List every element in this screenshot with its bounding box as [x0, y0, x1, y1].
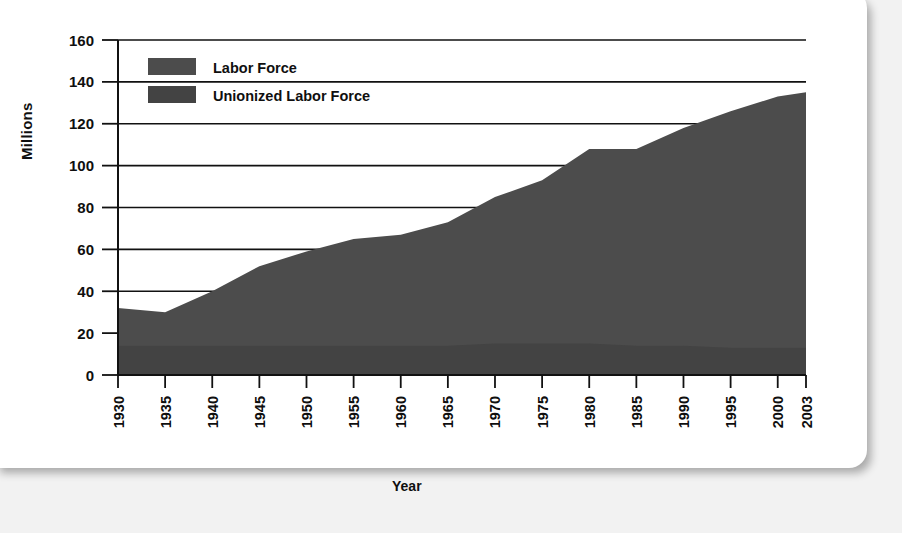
data-areas-group [118, 92, 806, 375]
legend-label: Unionized Labor Force [213, 88, 370, 104]
y-axis-tick-label: 160 [69, 32, 94, 49]
x-axis-tick-label: 1965 [440, 396, 456, 428]
y-axis-title: Millions [18, 40, 35, 160]
x-axis-tick-label: 2000 [770, 396, 786, 428]
x-axis-tick-label: 2003 [799, 396, 815, 428]
y-axis-tick-label: 140 [69, 73, 94, 90]
y-axis-tick-label: 80 [77, 199, 94, 216]
x-axis-tick-label: 1955 [346, 396, 362, 428]
screenshot-root: Millions Year 020406080100120140160 1930… [0, 0, 902, 533]
legend-swatch-labor-force [148, 58, 196, 75]
x-axis-tick-label: 1930 [111, 396, 127, 428]
x-axis-tick-label: 1980 [582, 396, 598, 428]
legend-swatch-unionized-labor-force [148, 86, 196, 103]
area-unionized-labor-force [118, 344, 806, 375]
chart-figure: Millions Year 020406080100120140160 1930… [0, 0, 875, 478]
x-axis-tick-label: 1940 [205, 396, 221, 428]
chart-legend: Labor ForceUnionized Labor Force [148, 58, 370, 104]
x-axis-tick-label: 1975 [535, 396, 551, 428]
y-axis-tick-label: 40 [77, 283, 94, 300]
y-axis-tick-label: 60 [77, 241, 94, 258]
x-axis-title: Year [392, 478, 422, 494]
x-axis-tick-label: 1990 [676, 396, 692, 428]
x-axis-tick-label: 1970 [487, 396, 503, 428]
x-axis-tick-label: 1985 [629, 396, 645, 428]
x-axis-tick-labels-group: 1930193519401945195019551960196519701975… [111, 396, 815, 428]
y-axis-ticks-group [102, 40, 118, 375]
x-axis-tick-label: 1950 [299, 396, 315, 428]
y-axis-tick-label: 0 [86, 367, 94, 384]
x-axis-tick-label: 1960 [393, 396, 409, 428]
x-axis-tick-label: 1935 [158, 396, 174, 428]
x-axis-tick-label: 1995 [723, 396, 739, 428]
area-chart-plot: 020406080100120140160 193019351940194519… [0, 0, 875, 478]
x-axis-tick-label: 1945 [252, 396, 268, 428]
area-labor-force [118, 92, 806, 375]
legend-label: Labor Force [213, 60, 297, 76]
y-axis-tick-label: 120 [69, 115, 94, 132]
y-axis-tick-label: 20 [77, 325, 94, 342]
y-axis-tick-labels-group: 020406080100120140160 [69, 32, 94, 384]
y-axis-tick-label: 100 [69, 157, 94, 174]
x-axis-ticks-group [118, 375, 806, 388]
